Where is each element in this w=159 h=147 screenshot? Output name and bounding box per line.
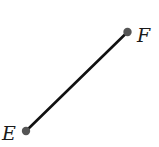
point-e-label: E xyxy=(1,122,16,144)
segment-ef xyxy=(26,32,128,131)
point-e-dot xyxy=(22,127,30,135)
point-f-dot xyxy=(123,28,131,36)
diagram-canvas: F E xyxy=(0,0,159,147)
point-f-label: F xyxy=(136,24,151,46)
